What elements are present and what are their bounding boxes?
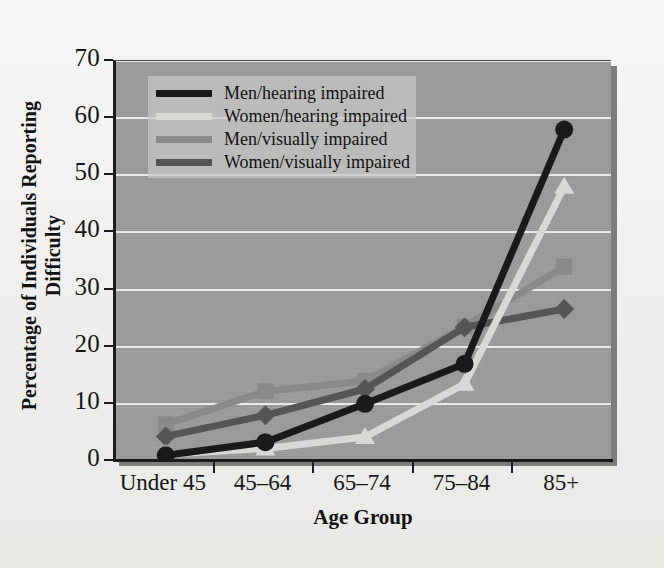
- legend-item[interactable]: Men/visually impaired: [156, 128, 408, 151]
- legend-label: Men/hearing impaired: [224, 83, 384, 104]
- data-point-marker: [555, 121, 573, 139]
- x-axis-line: [113, 459, 613, 462]
- series-3: [156, 299, 574, 446]
- x-tick-label: 65–74: [333, 470, 391, 496]
- x-tick-label: 75–84: [433, 470, 491, 496]
- legend-label: Women/hearing impaired: [224, 106, 407, 127]
- data-point-marker: [257, 383, 273, 399]
- legend-label: Men/visually impaired: [224, 129, 387, 150]
- series-line: [166, 309, 564, 436]
- data-point-marker: [256, 433, 274, 451]
- y-tick-mark: [104, 230, 113, 232]
- y-axis-title: Percentage of Individuals Reporting Diff…: [18, 46, 65, 466]
- data-point-marker: [554, 299, 574, 319]
- legend-swatch-icon: [156, 90, 212, 97]
- legend-swatch-icon: [156, 136, 212, 143]
- data-point-marker: [554, 177, 574, 194]
- data-point-marker: [456, 355, 474, 373]
- y-axis-title-line1: Percentage of Individuals Reporting: [18, 101, 40, 410]
- x-tick-label: 85+: [543, 470, 579, 496]
- x-tick-mark: [312, 462, 314, 473]
- y-tick-mark: [104, 173, 113, 175]
- legend-item[interactable]: Women/hearing impaired: [156, 105, 408, 128]
- legend-swatch-icon: [156, 159, 212, 166]
- x-tick-mark: [511, 462, 513, 473]
- data-point-marker: [356, 395, 374, 413]
- chart-legend: Men/hearing impairedWomen/hearing impair…: [148, 76, 416, 178]
- chart-figure: 706050403020100 Under 4545–6465–7475–848…: [0, 0, 664, 568]
- y-tick-mark: [104, 459, 113, 461]
- legend-swatch-icon: [156, 113, 212, 120]
- legend-item[interactable]: Women/visually impaired: [156, 151, 408, 174]
- y-tick-mark: [104, 288, 113, 290]
- data-point-marker: [157, 446, 175, 460]
- y-tick-mark: [104, 59, 113, 61]
- x-tick-label: Under 45: [120, 470, 206, 496]
- data-point-marker: [556, 259, 572, 275]
- y-axis-title-line2: Difficulty: [42, 215, 64, 296]
- y-tick-mark: [104, 116, 113, 118]
- y-tick-mark: [104, 402, 113, 404]
- data-point-marker: [255, 405, 275, 425]
- x-axis-title: Age Group: [113, 505, 613, 530]
- x-tick-mark: [213, 462, 215, 473]
- x-tick-mark: [412, 462, 414, 473]
- legend-item[interactable]: Men/hearing impaired: [156, 82, 408, 105]
- y-tick-mark: [104, 345, 113, 347]
- legend-label: Women/visually impaired: [224, 152, 410, 173]
- x-tick-label: 45–64: [234, 470, 292, 496]
